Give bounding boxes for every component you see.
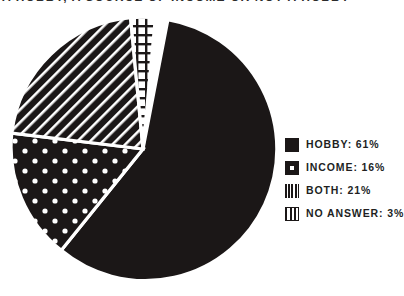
legend-item-income: INCOME: 16% (285, 156, 399, 179)
chart-legend: HOBBY: 61% INCOME: 16% BOTH: 21% NO ANSW… (285, 133, 399, 225)
legend-label-income: INCOME: 16% (306, 162, 385, 173)
legend-item-both: BOTH: 21% (285, 179, 399, 202)
pie-svg (10, 16, 276, 282)
solid-swatch-icon (285, 138, 299, 152)
legend-label-both: BOTH: 21% (306, 185, 371, 196)
chart-title-clipped: A HOBBY, A SOURCE OF INCOME OR NOT A HOB… (0, 0, 399, 5)
page-title: A HOBBY, A SOURCE OF INCOME OR NOT A HOB… (2, 0, 350, 4)
legend-item-no-answer: NO ANSWER: 3% (285, 202, 399, 225)
striped-swatch-icon (285, 184, 299, 198)
dotted-swatch-icon (285, 161, 299, 175)
grid-swatch-icon (285, 207, 299, 221)
legend-item-hobby: HOBBY: 61% (285, 133, 399, 156)
legend-label-no-answer: NO ANSWER: 3% (306, 208, 404, 219)
pie-graphic (10, 16, 276, 282)
pie-slice-both (12, 18, 143, 149)
legend-label-hobby: HOBBY: 61% (306, 139, 380, 150)
